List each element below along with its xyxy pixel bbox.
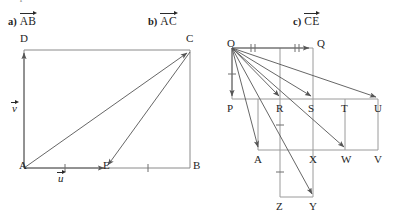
point-label-T: T: [341, 103, 348, 114]
arrow-O-to-W: [232, 48, 344, 147]
arrow-O-to-A: [232, 48, 258, 147]
figure-right-canvas: [0, 0, 399, 220]
arrow-O-to-Y: [232, 48, 312, 194]
point-label-V: V: [374, 154, 382, 165]
point-label-P: P: [227, 103, 233, 114]
point-label-U: U: [374, 103, 382, 114]
point-label-Z: Z: [276, 201, 283, 212]
point-label-Q: Q: [317, 38, 325, 49]
point-label-R: R: [276, 103, 283, 114]
figure-right-grid-vectors: O Q P R S T U A X W V Z Y: [0, 0, 399, 220]
point-label-W: W: [341, 154, 351, 165]
point-label-S: S: [308, 103, 314, 114]
point-label-A2: A: [254, 154, 262, 165]
point-label-X: X: [309, 154, 317, 165]
point-label-Y: Y: [309, 201, 317, 212]
point-label-O: O: [227, 38, 235, 49]
tick-marks-right: [228, 44, 299, 172]
arrow-O-to-U: [232, 48, 376, 97]
